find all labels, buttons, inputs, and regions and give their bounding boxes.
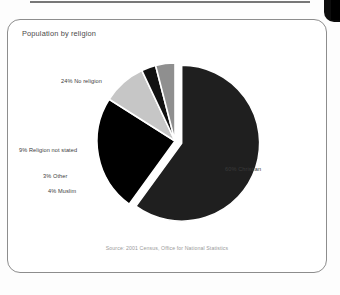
scan-artifact-top-line xyxy=(30,1,310,3)
pie-label-muslim: 4% Muslim xyxy=(48,188,76,194)
pie-label-no-religion: 24% No religion xyxy=(61,78,102,84)
pie-label-christian: 60% Christian xyxy=(225,166,261,172)
scanned-page: Population by religion 24% No religion 9… xyxy=(0,0,340,295)
source-note: Source: 2001 Census, Office for National… xyxy=(8,245,326,251)
pie-label-religion-not-stated: 9% Religion not stated xyxy=(19,147,77,153)
figure-card: Population by religion 24% No religion 9… xyxy=(7,19,327,273)
pie-label-other: 3% Other xyxy=(43,173,67,179)
pie-slice-group xyxy=(97,63,260,221)
scan-artifact-corner-inner xyxy=(331,0,340,20)
